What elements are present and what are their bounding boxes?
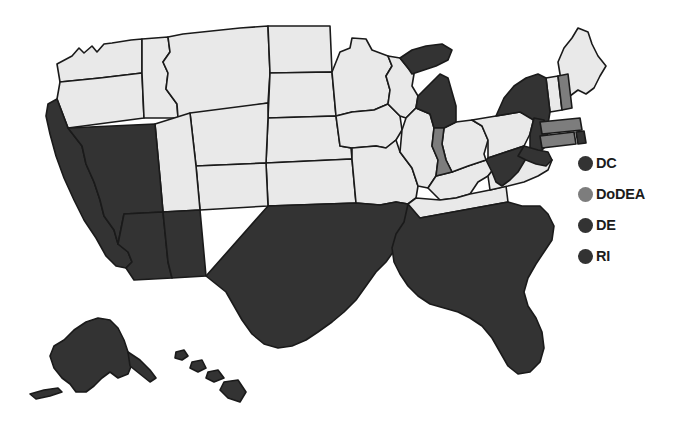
state-NM <box>163 210 206 278</box>
legend-label-dodea: DoDEA <box>596 187 645 202</box>
legend-item-de[interactable]: DE <box>578 210 682 241</box>
state-ND <box>268 26 332 73</box>
state-TX <box>206 202 410 348</box>
state-AK-aleutians <box>30 388 62 399</box>
legend-swatch-dc <box>578 156 593 171</box>
map-shapes <box>30 26 606 402</box>
state-AK <box>50 318 132 392</box>
legend-item-ri[interactable]: RI <box>578 241 682 272</box>
map-legend: DC DoDEA DE RI <box>578 148 682 272</box>
state-MN <box>332 38 392 116</box>
state-RI <box>576 131 586 144</box>
legend-label-dc: DC <box>596 156 617 171</box>
legend-item-dc[interactable]: DC <box>578 148 682 179</box>
state-SD <box>268 72 336 118</box>
state-GA <box>392 202 554 374</box>
legend-swatch-de <box>578 218 593 233</box>
legend-label-ri: RI <box>596 249 610 264</box>
legend-label-de: DE <box>596 218 616 233</box>
state-HI-1 <box>175 350 188 360</box>
state-OR <box>57 73 144 128</box>
legend-swatch-dodea <box>578 187 593 202</box>
map-figure: DC DoDEA DE RI <box>0 0 682 426</box>
legend-item-dodea[interactable]: DoDEA <box>578 179 682 210</box>
legend-swatch-ri <box>578 249 593 264</box>
state-KS <box>266 159 356 206</box>
state-HI-3 <box>206 370 224 382</box>
state-WY <box>190 103 268 166</box>
state-AK-panhandle <box>128 352 156 382</box>
state-HI-4 <box>220 380 246 402</box>
state-CO <box>196 163 268 210</box>
state-HI-2 <box>190 360 206 372</box>
